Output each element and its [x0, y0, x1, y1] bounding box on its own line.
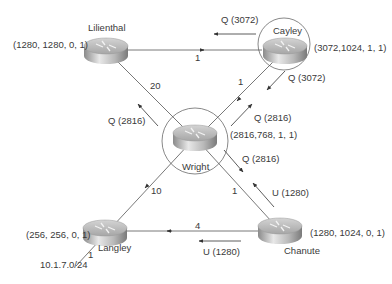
- cost-langley-network: 1: [88, 250, 93, 260]
- msg-q3072-to-lilienthal: Q (3072): [221, 15, 259, 25]
- router-icon-lilienthal: [84, 38, 128, 64]
- msg-q2816-to-chanute: Q (2816): [242, 154, 280, 164]
- cost-wright-langley: 10: [151, 186, 162, 196]
- cost-lilienthal-cayley: 1: [195, 53, 200, 63]
- arrow-q2816-to-cayley: [231, 104, 252, 126]
- msg-q2816-to-cayley: Q (2816): [254, 113, 292, 123]
- router-icon-wright: [173, 125, 217, 151]
- link-cayley-wright: [200, 57, 278, 135]
- msg-q2816-to-lilienthal: Q (2816): [108, 116, 146, 126]
- cost-chanute-langley: 4: [195, 221, 200, 231]
- network-prefix: 10.1.7.0/24: [40, 260, 88, 270]
- metrics-wright: (2816,768, 1, 1): [230, 130, 297, 140]
- router-icon-cayley: [263, 38, 307, 64]
- arrow-q3072-to-wright: [267, 71, 285, 90]
- router-icon-chanute: [258, 218, 302, 244]
- router-name-lilienthal: Lilienthal: [88, 23, 126, 33]
- arrow-q2816-to-chanute: [224, 150, 243, 172]
- metrics-cayley: (3072,1024, 1, 1): [314, 43, 386, 53]
- cost-lilienthal-wright: 20: [150, 81, 161, 91]
- msg-q3072-to-wright: Q (3072): [288, 73, 326, 83]
- router-name-chanute: Chanute: [284, 246, 320, 256]
- arrow-u1280-to-wright: [253, 183, 274, 207]
- cost-cayley-wright: 1: [238, 77, 243, 87]
- msg-u1280-to-wright: U (1280): [272, 188, 309, 198]
- metrics-chanute: (1280, 1024, 0, 1): [310, 228, 385, 238]
- router-name-cayley: Cayley: [273, 26, 302, 36]
- msg-u1280-to-langley: U (1280): [203, 247, 240, 257]
- router-name-langley: Langley: [98, 243, 131, 253]
- metrics-lilienthal: (1280, 1280, 0, 1): [13, 40, 88, 50]
- metrics-langley: (256, 256, 0, 1): [26, 230, 90, 240]
- cost-wright-chanute: 1: [232, 186, 237, 196]
- router-name-wright: Wright: [182, 162, 209, 172]
